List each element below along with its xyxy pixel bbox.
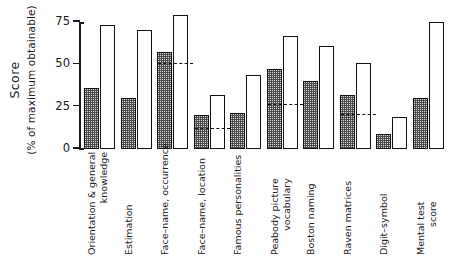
x-axis-label-line: Estimation [123,204,134,255]
x-axis-label-line: Peabody picture [269,178,280,255]
bar-stippled [340,95,355,149]
bar-stippled [121,98,136,149]
x-axis-label-line: vocabulary [280,178,292,255]
bar-open [356,63,371,149]
x-axis-label-line: Digit–symbol [378,194,389,255]
bar-open [246,75,261,150]
dashed-reference-line [195,128,230,129]
x-axis-label-line: Raven matrices [342,181,353,255]
x-axis-label-line: Mental test [415,201,426,255]
dashed-reference-line [341,114,376,115]
x-axis-label-line: Face–name, occurrence [159,143,170,255]
plot-area [84,22,449,149]
bar-stippled [84,88,99,149]
bar-open [319,46,334,149]
y-axis-tick-label: 0 [48,141,70,155]
y-axis-label: Score [7,62,24,99]
bar-group [84,22,115,149]
bar-open [100,25,115,149]
y-axis-tick-label: 50 [48,56,70,70]
bar-stippled [376,134,391,149]
y-axis-subtitle: (% of maximum obtainable) [24,5,38,154]
bar-open [137,30,152,149]
bar-stippled [267,69,282,149]
bar-group [121,22,152,149]
bar-group [303,22,334,149]
x-axis-label-line: Boston naming [305,183,316,255]
bar-group [157,22,188,149]
y-axis-tick [73,20,80,22]
y-axis-line [79,22,81,149]
x-axis-label-line: score [426,201,438,255]
x-axis-label-line: Face–name, location [196,158,207,255]
bar-open [392,117,407,149]
x-axis-label-line: Famous personalities [232,155,243,255]
bar-group [267,22,298,149]
y-axis-tick-label: 25 [48,99,70,113]
y-axis-tick-label: 75 [48,14,70,28]
x-axis-label-line: Orientation & general [86,152,97,255]
bar-group [413,22,444,149]
bar-open [429,22,444,149]
x-axis-label-line: knowledge [98,152,110,255]
bar-stippled [194,115,209,149]
bar-open [283,36,298,149]
y-axis-tick [73,105,80,107]
bar-stippled [157,52,172,149]
bar-stippled [303,81,318,149]
dashed-reference-line [268,104,303,105]
bar-group [194,22,225,149]
bar-open [210,95,225,149]
bar-group [230,22,261,149]
bar-open [173,15,188,149]
y-axis-tick [73,147,80,149]
chart-figure: (% of maximum obtainable) Score 0255075 … [0,0,455,262]
y-axis-tick [73,63,80,65]
bar-group [340,22,371,149]
dashed-reference-line [158,63,193,64]
y-axis-title: (% of maximum obtainable) Score [0,0,46,160]
bar-stippled [230,113,245,149]
bar-group [376,22,407,149]
bar-stippled [413,98,428,149]
